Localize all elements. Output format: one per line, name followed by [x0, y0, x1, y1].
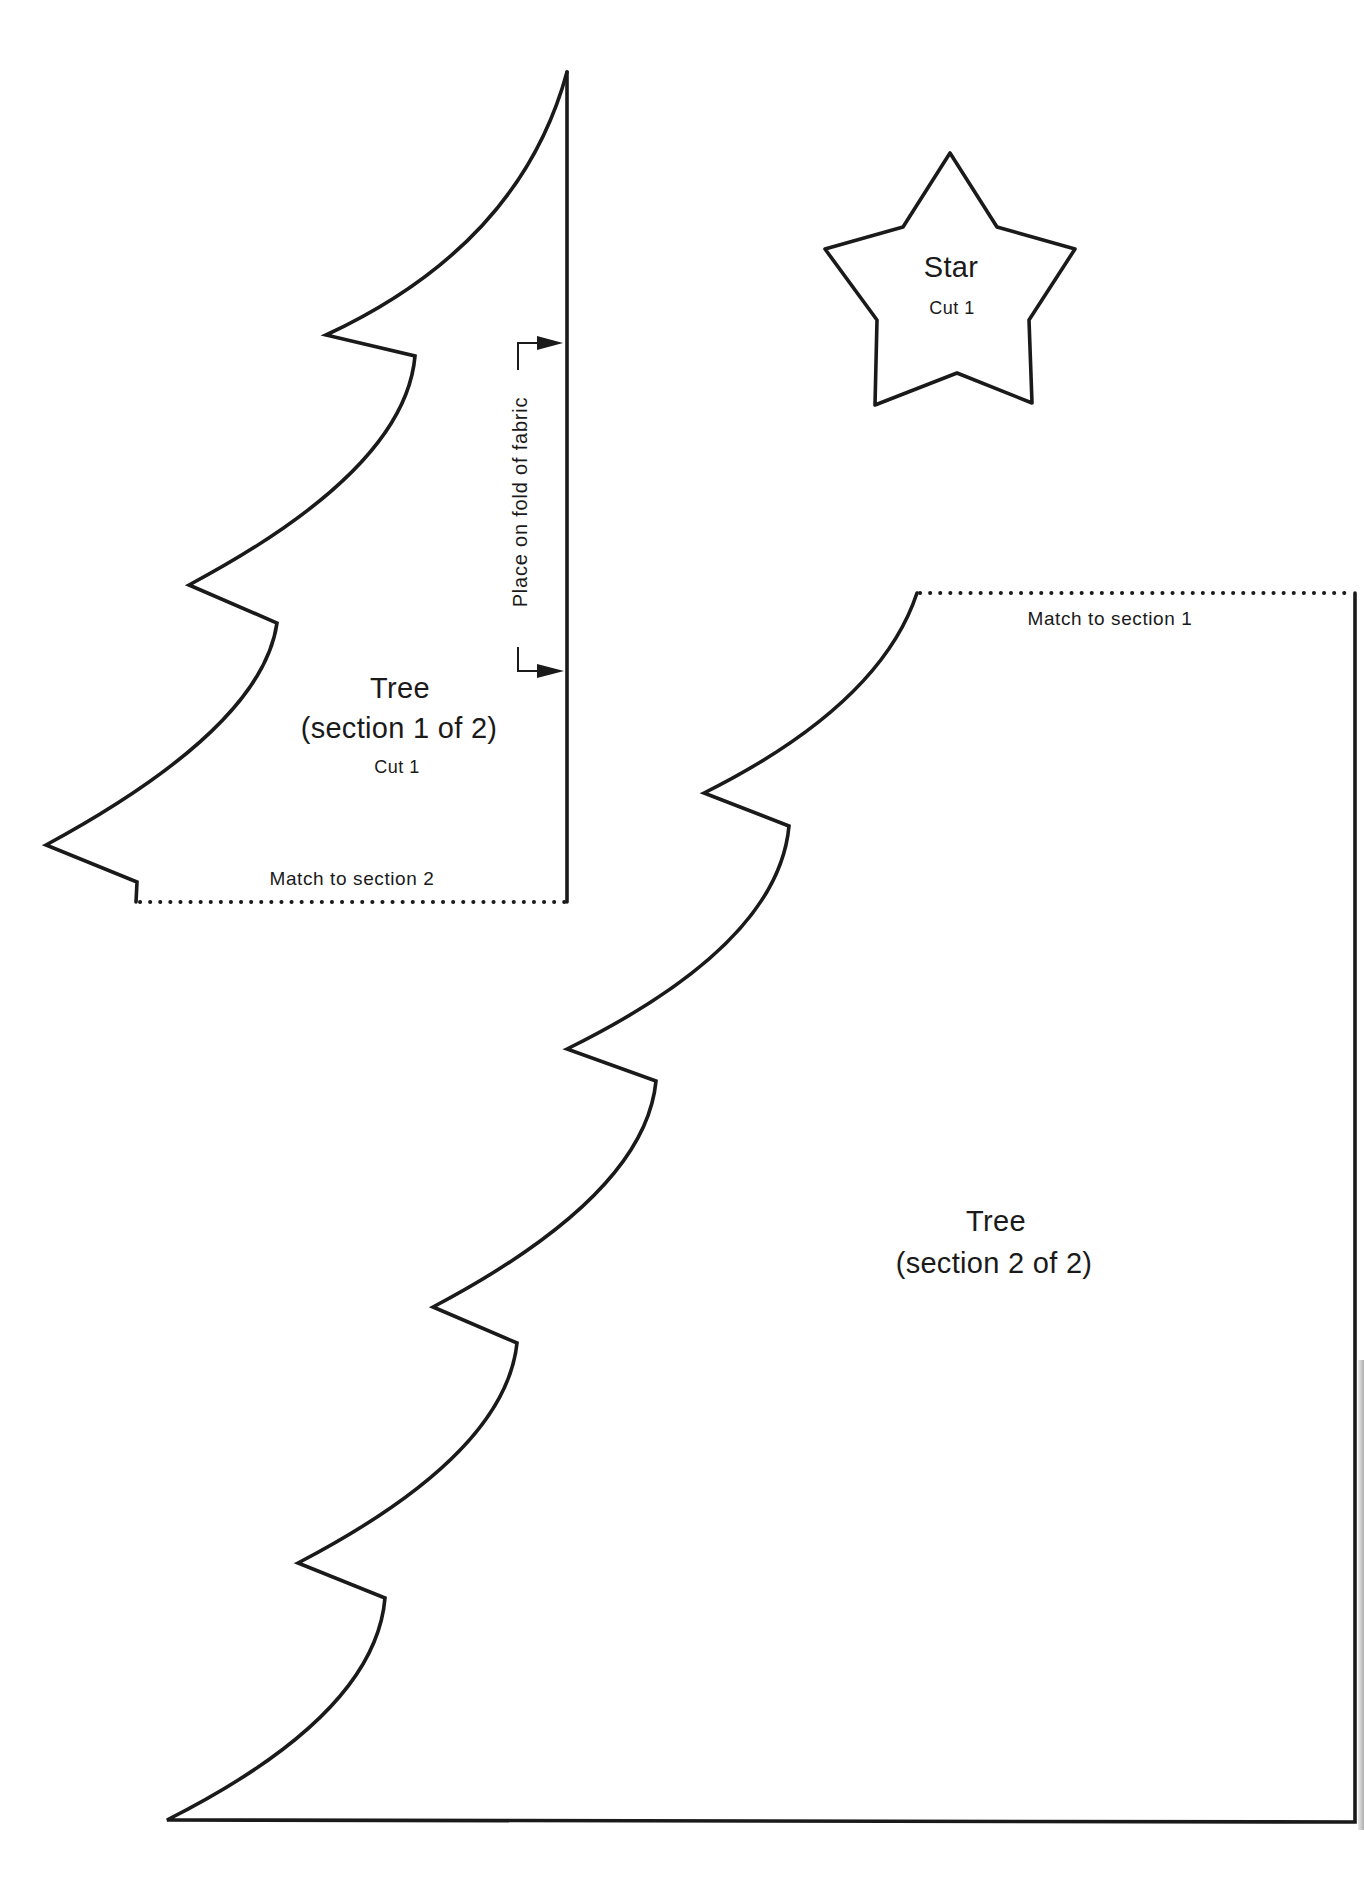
fold-instruction-label: Place on fold of fabric: [510, 397, 530, 608]
scan-edge-shadow: [1358, 1360, 1364, 1830]
pattern-page: Tree (section 1 of 2) Cut 1 Match to sec…: [0, 0, 1364, 1877]
tree-section-2-title: Tree: [966, 1207, 1026, 1236]
tree-section-1-match-label: Match to section 2: [270, 869, 435, 888]
tree-section-1-title: Tree: [370, 674, 430, 703]
tree-section-1-piece: [46, 72, 567, 902]
tree-section-1-outline-icon: [46, 72, 567, 902]
fold-arrow-top-icon: [537, 336, 563, 350]
star-title: Star: [924, 253, 978, 282]
tree-section-2-piece: [167, 593, 1355, 1822]
fold-arrow-bottom-icon: [537, 664, 564, 678]
pattern-drawing: [0, 0, 1364, 1877]
star-cut-count: Cut 1: [929, 299, 975, 317]
tree-section-2-match-label: Match to section 1: [1028, 609, 1193, 628]
tree-section-1-cut-count: Cut 1: [374, 758, 420, 776]
tree-section-1-subtitle: (section 1 of 2): [301, 714, 498, 743]
tree-section-2-outline-icon: [167, 593, 1355, 1822]
tree-section-2-subtitle: (section 2 of 2): [896, 1249, 1093, 1278]
